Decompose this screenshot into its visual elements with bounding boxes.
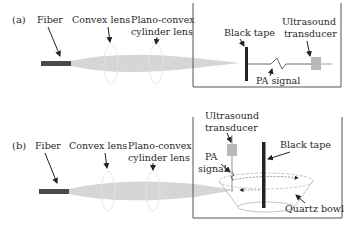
pa-signal-wave-b — [231, 172, 234, 180]
fiber-arrow-a — [48, 27, 60, 56]
convex-lens-arrow-a — [108, 27, 110, 42]
cylinder-lens-arrow-a — [156, 37, 157, 44]
experimental-setup-diagram: (a) Fiber Convex lens Plano-convex cylin… — [0, 0, 353, 226]
panel-a-label: (a) — [12, 14, 26, 25]
cylinder-lens-label-a-1: Plano-convex — [131, 14, 195, 25]
transducer-label-b-1: Ultrasound — [205, 110, 259, 121]
fiber-label-a: Fiber — [37, 14, 63, 25]
fiber-b — [39, 189, 69, 194]
laser-beam-a — [71, 55, 240, 72]
cylinder-lens-label-b-1: Plano-convex — [128, 140, 192, 151]
ultrasound-transducer-a — [311, 57, 321, 70]
panel-b-label: (b) — [12, 140, 26, 151]
black-tape-arrow-a — [240, 39, 244, 46]
fiber-arrow-b — [45, 153, 57, 183]
convex-lens-label-a: Convex lens — [72, 14, 130, 25]
pa-signal-label-b-1: PA — [205, 151, 218, 162]
transducer-arrow-b — [227, 133, 231, 142]
black-tape-label-b: Black tape — [280, 139, 331, 150]
convex-lens-arrow-b — [105, 153, 107, 168]
pa-signal-label-a: PA signal — [256, 75, 300, 86]
pa-signal-label-b-2: signal — [198, 163, 227, 174]
cylinder-lens-label-b-2: cylinder lens — [128, 152, 190, 163]
transducer-label-a-2: transducer — [284, 28, 337, 39]
black-tape-b — [262, 142, 266, 208]
fiber-a — [41, 61, 71, 66]
transducer-label-a-1: Ultrasound — [282, 16, 336, 27]
quartz-bowl-label: Quartz bowl — [285, 203, 344, 214]
pa-signal-wave-a — [248, 58, 311, 69]
cylinder-lens-label-a-2: cylinder lens — [131, 26, 193, 37]
black-tape-a — [245, 47, 248, 81]
quartz-bowl-arrow — [296, 195, 305, 203]
transducer-arrow-a — [307, 41, 310, 56]
panel-b: (b) Fiber Convex lens Plano-convex cylin… — [12, 110, 344, 218]
ultrasound-transducer-b — [227, 144, 237, 156]
transducer-label-b-2: transducer — [205, 122, 258, 133]
black-tape-label-a: Black tape — [224, 27, 275, 38]
black-tape-arrow-b — [268, 152, 290, 159]
fiber-label-b: Fiber — [35, 140, 61, 151]
convex-lens-label-b: Convex lens — [69, 140, 127, 151]
laser-beam-b — [69, 181, 235, 200]
panel-a: (a) Fiber Convex lens Plano-convex cylin… — [12, 3, 341, 87]
